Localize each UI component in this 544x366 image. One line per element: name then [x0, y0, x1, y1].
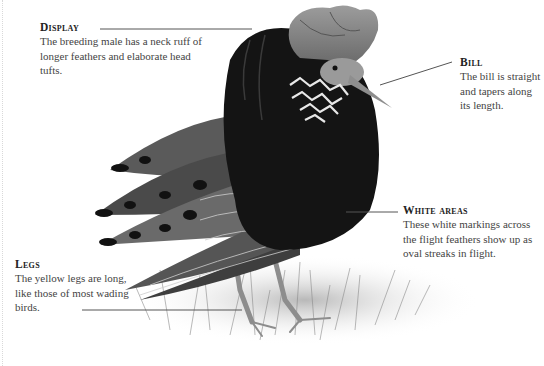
annotation-body: The breeding male has a neck ruff of lon…	[40, 34, 210, 78]
annotation-heading: Display	[40, 21, 210, 34]
head-tufts	[289, 5, 378, 62]
annotation-bill: Bill The bill is straight and tapers alo…	[460, 56, 544, 113]
annotation-white-areas: White areas These white markings across …	[403, 204, 544, 261]
annotation-heading: White areas	[403, 204, 544, 217]
leader-line-bill	[380, 62, 452, 85]
annotation-heading: Legs	[15, 258, 135, 271]
annotation-legs: Legs The yellow legs are long, like thos…	[15, 258, 135, 315]
annotation-body: The bill is straight and tapers along it…	[460, 69, 544, 113]
annotation-body: The yellow legs are long, like those of …	[15, 271, 135, 315]
annotation-heading: Bill	[460, 56, 544, 69]
annotation-display: Display The breeding male has a neck ruf…	[40, 21, 210, 78]
annotation-body: These white markings across the flight f…	[403, 217, 544, 261]
